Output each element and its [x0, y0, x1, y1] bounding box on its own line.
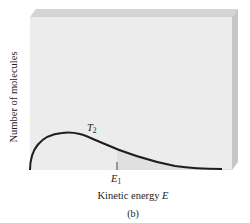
plot-area — [30, 17, 232, 170]
x-axis-label: Kinetic energy E — [0, 190, 250, 201]
x-axis-label-var: E — [162, 190, 168, 201]
tick-label-e1: E1 — [111, 173, 121, 186]
box-side-face — [232, 9, 238, 170]
curve-label-sub: 2 — [93, 126, 97, 135]
tick-label-sub: 1 — [117, 177, 121, 186]
x-axis-label-text: Kinetic energy — [98, 190, 163, 201]
energy-distribution-figure: Number of molecules T2 E1 Kinetic energy… — [0, 0, 250, 223]
box-top-face — [30, 9, 238, 17]
y-axis-label-text: Number of molecules — [8, 52, 19, 143]
curve-label-t2: T2 — [87, 122, 97, 135]
panel-caption: (b) — [0, 208, 250, 219]
